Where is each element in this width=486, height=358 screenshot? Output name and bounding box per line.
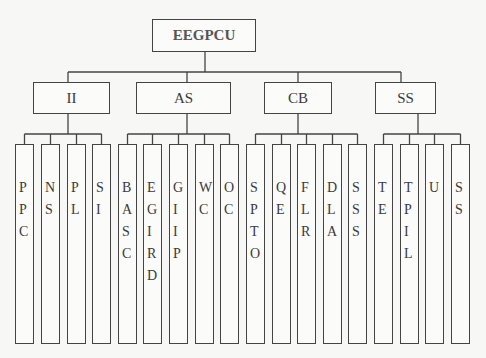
leaf-node-cb-2: Q E [272,144,291,344]
leaf-node-cb-4: D L A [323,144,342,344]
category-label: SS [397,90,414,107]
leaf-label: W C [199,177,215,221]
leaf-node-ii-1: P P C [15,144,34,344]
category-node-as: AS [136,82,231,114]
category-node-cb: CB [264,82,332,114]
leaf-label: G I I P [173,177,189,265]
leaf-node-cb-3: F L R [297,144,316,344]
leaf-label: S S [455,177,471,221]
category-label: CB [288,90,308,107]
category-node-ss: SS [375,82,436,114]
leaf-label: P L [71,177,87,221]
leaf-label: B A S C [122,177,138,265]
leaf-label: U [429,177,445,199]
leaf-node-as-4: W C [195,144,214,344]
leaf-label: E G I R D [147,177,163,287]
leaf-node-cb-1: S P T O [246,144,265,344]
leaf-node-as-3: G I I P [169,144,188,344]
root-label: EEGPCU [173,27,236,44]
leaf-label: S P T O [250,177,266,265]
leaf-node-ss-2: T P I L [400,144,419,344]
leaf-label: D L A [327,177,343,243]
leaf-node-as-2: E G I R D [143,144,162,344]
leaf-label: P P C [19,177,35,243]
leaf-node-ii-3: P L [67,144,86,344]
leaf-node-ss-4: S S [451,144,470,344]
leaf-node-ss-1: T E [374,144,393,344]
category-label: AS [174,90,193,107]
org-chart: EEGPCU II AS CB SS P P CN SP LS IB A S C… [0,0,486,358]
leaf-label: S S S [352,177,368,243]
category-label: II [67,90,77,107]
leaf-node-as-1: B A S C [118,144,137,344]
leaf-label: T P I L [404,177,420,265]
leaf-node-ii-2: N S [41,144,60,344]
leaf-label: N S [45,177,61,221]
leaf-node-cb-5: S S S [348,144,367,344]
leaf-node-ii-4: S I [92,144,111,344]
leaf-node-as-5: O C [220,144,239,344]
leaf-label: Q E [276,177,292,221]
leaf-node-ss-3: U [425,144,444,344]
leaf-label: T E [378,177,394,221]
leaf-label: F L R [301,177,317,243]
leaf-label: O C [224,177,240,221]
category-node-ii: II [33,82,110,114]
root-node: EEGPCU [152,19,256,52]
leaf-label: S I [96,177,112,221]
